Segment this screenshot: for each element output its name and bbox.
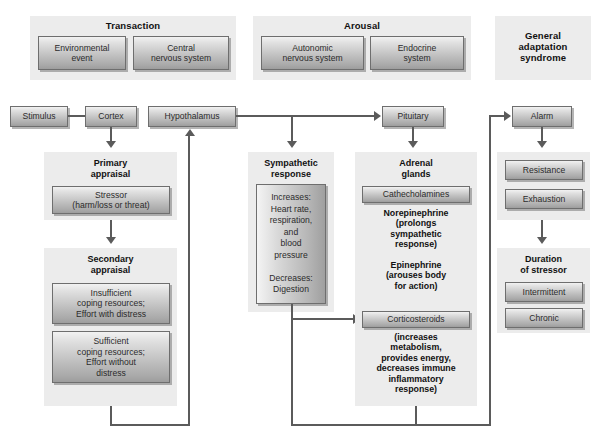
box-resistance[interactable]: Resistance bbox=[505, 160, 583, 180]
box-endocrine-system[interactable]: Endocrine system bbox=[370, 36, 464, 70]
arrow-cortex-to-primary bbox=[106, 141, 116, 148]
arrow-into-alarm bbox=[504, 111, 511, 121]
adrenal-glands-title: Adrenal glands bbox=[355, 158, 477, 179]
secondary-appraisal-title: Secondary appraisal bbox=[44, 254, 177, 275]
box-sufficient-coping[interactable]: Sufficient coping resources; Effort with… bbox=[52, 331, 170, 383]
connector-sympathetic-feedback-down bbox=[291, 318, 293, 426]
arrow-feedback-to-hypothalamus bbox=[185, 129, 195, 136]
arrow-gas-to-duration bbox=[537, 237, 547, 244]
box-alarm[interactable]: Alarm bbox=[512, 106, 572, 127]
connector-secondary-feedback-down bbox=[110, 406, 112, 426]
box-stressor[interactable]: Stressor (harm/loss or threat) bbox=[52, 186, 170, 214]
connector-hypothalamus-right bbox=[236, 115, 375, 117]
arrow-to-sympathetic bbox=[287, 141, 297, 148]
primary-appraisal-title: Primary appraisal bbox=[44, 158, 177, 179]
box-intermittent[interactable]: Intermittent bbox=[505, 282, 583, 302]
box-exhaustion[interactable]: Exhaustion bbox=[505, 189, 583, 209]
box-hypothalamus[interactable]: Hypothalamus bbox=[148, 106, 236, 127]
connector-cortico-feedback-down bbox=[415, 406, 417, 426]
arrow-to-pituitary bbox=[374, 111, 381, 121]
box-cortex[interactable]: Cortex bbox=[85, 106, 137, 127]
sympathetic-response-title: Sympathetic response bbox=[248, 158, 334, 179]
box-sympathetic-effects[interactable]: Increases: Heart rate, respiration, and … bbox=[256, 184, 326, 304]
diagram-canvas: Transaction Environmental event Central … bbox=[0, 0, 602, 444]
connector-sympathetic-to-cortico bbox=[291, 318, 355, 320]
connector-branch-sympathetic bbox=[291, 115, 293, 143]
box-insufficient-coping[interactable]: Insufficient coping resources; Effort wi… bbox=[52, 283, 170, 324]
box-pituitary[interactable]: Pituitary bbox=[382, 106, 444, 127]
panel-general-adaptation-syndrome-title: General adaptation syndrome bbox=[495, 30, 591, 63]
arrow-alarm-to-resistance bbox=[537, 141, 547, 148]
box-corticosteroids[interactable]: Corticosteroids bbox=[362, 311, 470, 328]
adrenal-corticosteroids-text: (increases metabolism, provides energy, … bbox=[355, 332, 477, 394]
connector-bottom-trunk bbox=[291, 424, 491, 426]
connector-stimulus-cortex bbox=[68, 115, 85, 117]
box-cathecholamines[interactable]: Cathecholamines bbox=[362, 186, 470, 203]
connector-secondary-feedback-across bbox=[110, 424, 190, 426]
connector-bottom-to-alarm-up bbox=[489, 115, 491, 426]
duration-of-stressor-title: Duration of stressor bbox=[497, 254, 590, 275]
box-central-nervous-system[interactable]: Central nervous system bbox=[133, 36, 229, 70]
arrow-pituitary-to-adrenal bbox=[408, 141, 418, 148]
connector-feedback-up-hypothalamus bbox=[188, 136, 190, 426]
box-environmental-event[interactable]: Environmental event bbox=[38, 36, 126, 70]
panel-arousal-title: Arousal bbox=[253, 20, 471, 31]
box-stimulus[interactable]: Stimulus bbox=[10, 106, 68, 127]
arrow-primary-to-secondary bbox=[106, 237, 116, 244]
box-chronic[interactable]: Chronic bbox=[505, 308, 583, 328]
adrenal-catecholamines-text: Norepinephrine (prolongs sympathetic res… bbox=[357, 208, 475, 291]
box-autonomic-nervous-system[interactable]: Autonomic nervous system bbox=[261, 36, 364, 70]
panel-transaction-title: Transaction bbox=[30, 20, 236, 31]
